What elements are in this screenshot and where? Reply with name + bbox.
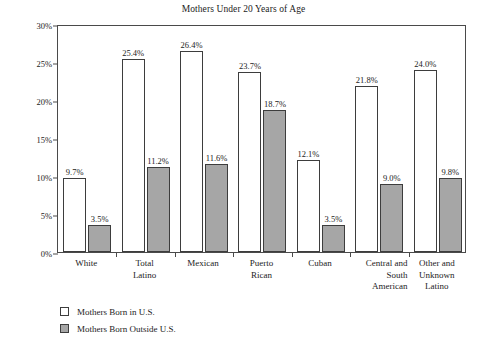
legend-item[interactable]: Mothers Born Outside U.S. [60, 320, 176, 337]
bar-born-outside-us[interactable]: 11.2% [147, 167, 170, 252]
bar-group: 26.4%11.6% [175, 26, 233, 252]
bar-value-label: 3.5% [325, 214, 343, 224]
bar-group: 9.7%3.5% [58, 26, 116, 252]
x-axis-label: Mexican [174, 258, 232, 270]
x-axis-tick-mark [409, 252, 410, 257]
white-square-swatch [60, 307, 69, 316]
x-axis-label: Central and South American [349, 258, 407, 293]
bar-born-in-us[interactable]: 12.1% [297, 160, 320, 252]
bar-born-outside-us[interactable]: 18.7% [263, 110, 286, 252]
y-axis-tick-label: 25% [36, 59, 52, 69]
chart-legend: Mothers Born in U.S.Mothers Born Outside… [60, 303, 176, 337]
bar-group: 25.4%11.2% [116, 26, 174, 252]
bar-born-in-us[interactable]: 26.4% [180, 51, 203, 252]
bar-born-in-us[interactable]: 21.8% [355, 86, 378, 252]
x-axis-label: Other and Unknown Latino [408, 258, 466, 293]
x-axis-tick-mark [175, 252, 176, 257]
y-axis-tick-label: 10% [36, 173, 52, 183]
bar-value-label: 18.7% [264, 99, 286, 109]
bar-value-label: 12.1% [297, 149, 319, 159]
x-axis-label: Total Latino [115, 258, 173, 281]
bar-value-label: 11.6% [206, 153, 228, 163]
x-axis-tick-mark [233, 252, 234, 257]
plot-area: 0%5%10%15%20%25%30% 9.7%3.5%25.4%11.2%26… [57, 25, 466, 253]
bar-born-outside-us[interactable]: 3.5% [322, 225, 345, 252]
bar-group: 24.0%9.8% [409, 26, 467, 252]
x-axis-tick-mark [292, 252, 293, 257]
bar-born-outside-us[interactable]: 11.6% [205, 164, 228, 252]
bar-value-label: 24.0% [414, 59, 436, 69]
legend-item[interactable]: Mothers Born in U.S. [60, 303, 176, 320]
bar-born-in-us[interactable]: 23.7% [238, 72, 261, 252]
y-axis-tick-label: 0% [41, 249, 52, 259]
chart-title: Mothers Under 20 Years of Age [0, 4, 487, 14]
bar-born-in-us[interactable]: 25.4% [122, 59, 145, 252]
x-axis-label: Cuban [291, 258, 349, 270]
y-axis-tick-label: 30% [36, 21, 52, 31]
bar-born-outside-us[interactable]: 3.5% [88, 225, 111, 252]
x-axis-label: White [57, 258, 115, 270]
bar-born-in-us[interactable]: 9.7% [63, 178, 86, 252]
y-axis-tick-label: 20% [36, 97, 52, 107]
bar-value-label: 9.7% [66, 167, 84, 177]
legend-item-label: Mothers Born in U.S. [77, 307, 155, 317]
bar-born-outside-us[interactable]: 9.0% [380, 184, 403, 252]
bar-value-label: 21.8% [356, 75, 378, 85]
gray-square-swatch [60, 324, 69, 333]
legend-item-label: Mothers Born Outside U.S. [77, 324, 176, 334]
bar-born-outside-us[interactable]: 9.8% [439, 178, 462, 252]
bar-born-in-us[interactable]: 24.0% [414, 70, 437, 252]
x-axis-tick-mark [116, 252, 117, 257]
bar-value-label: 3.5% [91, 214, 109, 224]
bar-group: 12.1%3.5% [292, 26, 350, 252]
x-axis-tick-mark [350, 252, 351, 257]
bar-value-label: 23.7% [239, 61, 261, 71]
bar-value-label: 26.4% [181, 40, 203, 50]
y-axis-tick-label: 15% [36, 135, 52, 145]
y-axis-tick-mark [53, 254, 58, 255]
bar-group: 21.8%9.0% [350, 26, 408, 252]
bar-value-label: 9.8% [441, 167, 459, 177]
bar-value-label: 25.4% [122, 48, 144, 58]
bar-group: 23.7%18.7% [233, 26, 291, 252]
y-axis-tick-label: 5% [41, 211, 52, 221]
bar-value-label: 9.0% [383, 173, 401, 183]
x-axis-label: Puerto Rican [232, 258, 290, 281]
bar-value-label: 11.2% [147, 156, 169, 166]
